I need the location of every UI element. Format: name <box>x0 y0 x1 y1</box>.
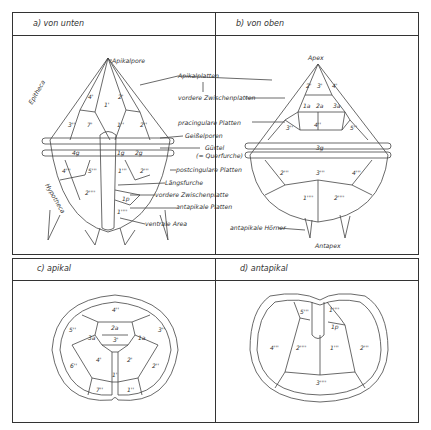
svg-text:4'': 4'' <box>314 121 321 128</box>
svg-text:2': 2' <box>306 82 312 89</box>
svg-text:3''': 3''' <box>316 169 325 176</box>
svg-text:3'': 3'' <box>286 124 293 131</box>
svg-text:4g: 4g <box>72 149 80 157</box>
svg-text:3g: 3g <box>316 144 324 152</box>
svg-text:4': 4' <box>332 82 338 89</box>
label-geisselporen: Geißelporen <box>185 132 223 140</box>
svg-text:4''': 4''' <box>270 344 279 351</box>
svg-text:1''': 1''' <box>118 167 127 174</box>
svg-text:2g: 2g <box>135 149 143 157</box>
label-praecingulare-platten: pracingulare Platten <box>177 119 241 127</box>
svg-text:1'': 1'' <box>127 386 134 393</box>
label-apex: Apex <box>307 54 324 62</box>
svg-text:3'''': 3'''' <box>316 379 327 386</box>
svg-text:2': 2' <box>127 356 133 363</box>
panel-c-plate-labels: 4'' 5'' 2a 3a 3' 1a 3'' 4' 2' 6'' 2'' 1'… <box>69 306 165 393</box>
svg-text:7'': 7'' <box>96 386 103 393</box>
svg-text:1a: 1a <box>303 102 311 109</box>
svg-text:2''': 2''' <box>280 169 289 176</box>
label-laengsfurche: Längsfurche <box>165 179 203 187</box>
dinoflagellate-diagram: Apikalpore Apikalplatten vordere Zwische… <box>0 0 431 430</box>
label-apikalpore: Apikalpore <box>111 57 145 65</box>
svg-text:1'': 1'' <box>117 121 124 128</box>
svg-text:5''': 5''' <box>88 167 97 174</box>
label-epitheca: Epitheca <box>27 79 47 106</box>
svg-text:2''': 2''' <box>140 167 149 174</box>
label-antapikale-platten: antapikale Platten <box>176 203 232 211</box>
panel-d-plate-labels: 5''' 1'''' 1p 4''' 2'''' 1''' 2''' 3'''' <box>270 306 369 386</box>
label-vordere-zwischenplatte: vordere Zwischenplatte <box>155 191 229 199</box>
svg-text:4''': 4''' <box>352 169 361 176</box>
svg-text:4': 4' <box>96 356 102 363</box>
label-hypotheca: Hypotheca <box>43 182 67 215</box>
svg-text:2a: 2a <box>111 324 119 331</box>
panel-b-plate-labels: 2' 3' 4' 1a 2a 3a 3'' 4'' 5'' 3g 2''' 3'… <box>280 82 361 201</box>
label-antapex: Antapex <box>314 242 341 250</box>
label-antapikale-hoerner: antapikale Hörner <box>230 224 286 232</box>
label-vordere-zwischenplatten: vordere Zwischenplatten <box>178 94 255 102</box>
panel-b-cell <box>245 64 391 238</box>
svg-text:4': 4' <box>88 93 94 100</box>
svg-text:1a: 1a <box>138 334 146 341</box>
svg-text:1p: 1p <box>122 195 130 203</box>
svg-text:2''': 2''' <box>360 344 369 351</box>
svg-text:2'': 2'' <box>152 362 159 369</box>
svg-text:2'''': 2'''' <box>296 344 307 351</box>
label-postcingulare-platten: postcingulare Platten <box>175 166 242 174</box>
panel-a-cell <box>42 58 174 245</box>
svg-text:2'''': 2'''' <box>334 194 345 201</box>
label-querfurche: (= Querfurche) <box>196 152 243 159</box>
svg-text:4'': 4'' <box>112 306 119 313</box>
label-guertel: Gürtel <box>205 144 224 151</box>
svg-text:3a: 3a <box>333 102 341 109</box>
svg-text:2': 2' <box>118 93 124 100</box>
svg-text:5'': 5'' <box>69 326 76 333</box>
label-ventrale-area: ventrale Area <box>145 220 187 227</box>
svg-text:1'''': 1'''' <box>117 208 128 215</box>
svg-text:1''': 1''' <box>330 344 339 351</box>
svg-text:4''': 4''' <box>62 167 71 174</box>
svg-text:2'': 2'' <box>140 121 147 128</box>
svg-text:2a: 2a <box>316 102 324 109</box>
svg-text:5'': 5'' <box>350 124 357 131</box>
svg-text:7': 7' <box>87 121 93 128</box>
svg-text:6'': 6'' <box>70 362 77 369</box>
svg-text:3'': 3'' <box>158 326 165 333</box>
svg-text:2'''': 2'''' <box>85 189 96 196</box>
svg-text:1'''': 1'''' <box>303 194 314 201</box>
svg-text:3': 3' <box>113 336 119 343</box>
svg-text:1': 1' <box>112 371 118 378</box>
svg-text:1p: 1p <box>331 323 339 331</box>
svg-text:3': 3' <box>317 82 323 89</box>
svg-text:5''': 5''' <box>300 308 309 315</box>
svg-text:1'''': 1'''' <box>329 306 340 313</box>
svg-text:3a: 3a <box>88 334 96 341</box>
svg-text:1': 1' <box>104 101 110 108</box>
svg-text:3'': 3'' <box>68 121 75 128</box>
svg-text:1g: 1g <box>117 149 125 157</box>
